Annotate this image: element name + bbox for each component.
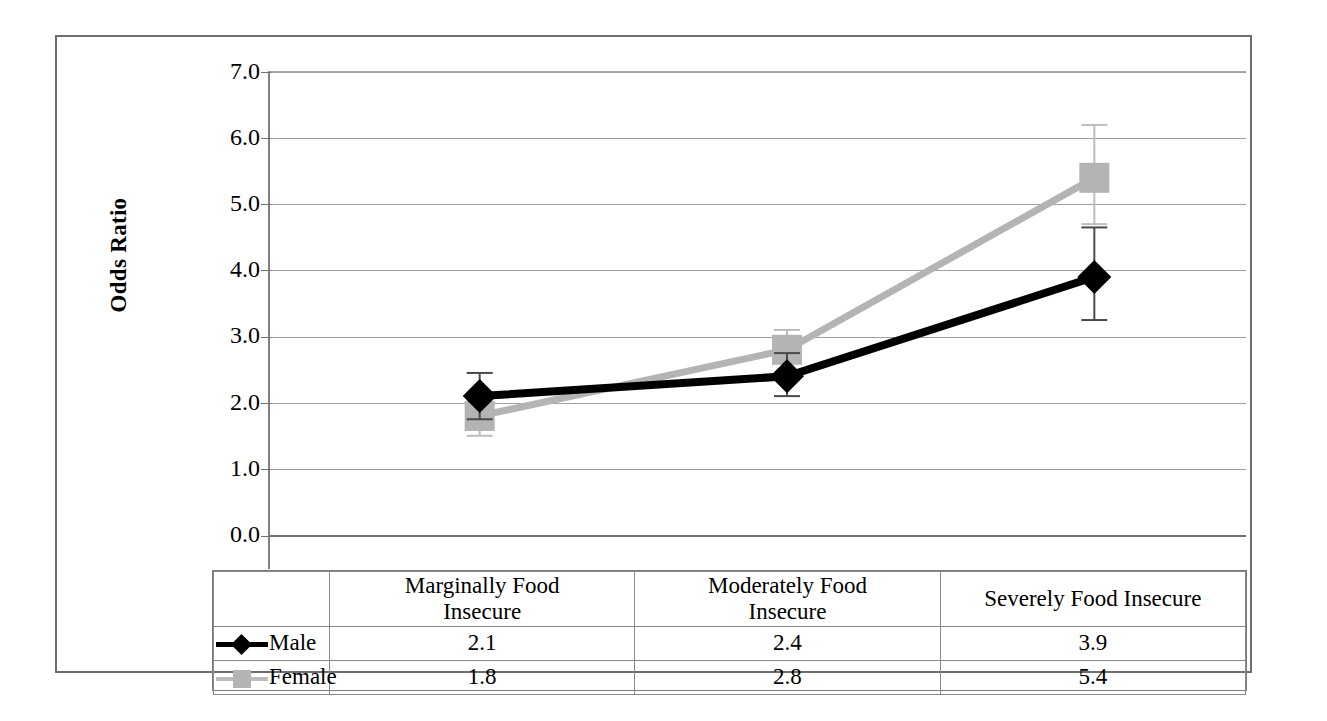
y-axis-tick-labels: 7.0 6.0 5.0 4.0 3.0 2.0 1.0 0.0	[192, 71, 260, 535]
category-header-1-line1: Moderately Food	[708, 573, 867, 598]
plot-series-layer	[270, 72, 1248, 570]
y-axis-title: Odds Ratio	[106, 155, 132, 355]
legend-key-female	[216, 668, 268, 688]
cell-male-0: 2.1	[330, 627, 635, 661]
category-header-0-line2: Insecure	[443, 599, 521, 624]
y-tick-label-6: 6.0	[192, 122, 260, 152]
legend-label-female: Female	[269, 664, 337, 690]
data-point-marker-square	[1079, 163, 1109, 193]
square-marker-icon	[233, 670, 251, 688]
series-male	[463, 227, 1112, 419]
y-tick-label-5: 5.0	[192, 188, 260, 218]
table-row: Male 2.1 2.4 3.9	[214, 627, 1246, 661]
category-header-2-line1: Severely Food Insecure	[984, 586, 1201, 611]
table-row-headers: Marginally Food Insecure Moderately Food…	[214, 572, 1246, 627]
legend-key-male	[216, 634, 268, 654]
category-header-1-line2: Insecure	[749, 599, 827, 624]
y-tick-label-3: 3.0	[192, 320, 260, 350]
cell-male-1: 2.4	[635, 627, 940, 661]
y-tick-label-1: 1.0	[192, 453, 260, 483]
cell-female-0: 1.8	[330, 661, 635, 695]
cell-female-2: 5.4	[940, 661, 1245, 695]
category-header-0-line1: Marginally Food	[405, 573, 560, 598]
category-header-1: Moderately Food Insecure	[635, 572, 940, 627]
y-tick-label-7: 7.0	[192, 56, 260, 86]
plot-area	[268, 71, 1246, 569]
y-tick-label-2: 2.0	[192, 387, 260, 417]
diamond-marker-icon	[231, 633, 252, 654]
legend-header-blank	[214, 572, 330, 627]
cell-female-1: 2.8	[635, 661, 940, 695]
figure-frame: Odds Ratio 7.0 6.0 5.0 4.0 3.0 2.0 1.0 0…	[55, 35, 1252, 673]
data-point-marker-diamond	[1077, 260, 1111, 294]
table-row: Female 1.8 2.8 5.4	[214, 661, 1246, 695]
legend-entry-male[interactable]: Male	[214, 627, 330, 661]
legend-label-male: Male	[269, 630, 316, 656]
legend-entry-female[interactable]: Female	[214, 661, 330, 695]
y-tick-label-4: 4.0	[192, 254, 260, 284]
cell-male-2: 3.9	[940, 627, 1245, 661]
category-header-0: Marginally Food Insecure	[330, 572, 635, 627]
y-tick-label-0: 0.0	[192, 519, 260, 549]
category-header-2: Severely Food Insecure	[940, 572, 1245, 627]
data-table: Marginally Food Insecure Moderately Food…	[212, 570, 1247, 691]
